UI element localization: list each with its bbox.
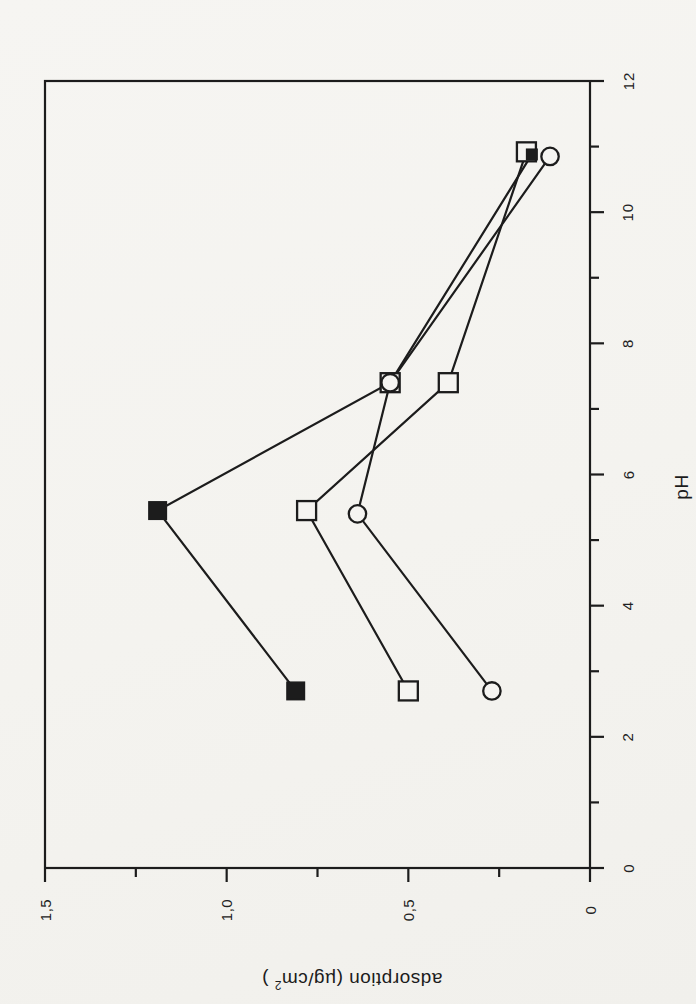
plot-box	[45, 81, 590, 868]
marker-open-circle	[483, 682, 500, 699]
marker-filled-square	[287, 682, 305, 700]
ph-axis-tick-label: 4	[620, 601, 637, 610]
ph-axis-tick-label: 10	[620, 203, 637, 222]
marker-open-circle	[541, 148, 558, 165]
adsorption-axis-title-suffix: )	[262, 969, 275, 990]
marker-open-square	[297, 501, 316, 520]
adsorption-axis-tick-label: 0,5	[400, 899, 417, 921]
adsorption-axis-tick-label: 1,0	[218, 899, 235, 921]
ph-axis-tick-label: 8	[620, 339, 637, 348]
series-line-filled-squares	[158, 154, 532, 690]
marker-open-square	[399, 681, 418, 700]
marker-open-circle	[381, 374, 398, 391]
ph-axis-tick-label: 6	[620, 470, 637, 479]
ph-axis-tick-label: 2	[620, 732, 637, 741]
series-line-open-squares	[307, 152, 527, 691]
marker-open-circle	[349, 505, 366, 522]
ph-axis-tick-label: 0	[620, 863, 637, 872]
ph-axis-tick-label: 12	[620, 72, 637, 91]
adsorption-axis-title-text: adsorption (µg/cm	[281, 969, 442, 990]
adsorption-axis-tick-label: 1,5	[37, 899, 54, 921]
marker-small-filled-square	[526, 148, 538, 160]
ph-axis-title: pH	[671, 474, 693, 499]
marker-open-square	[439, 373, 458, 392]
adsorption-axis-title-superscript: 2	[274, 978, 281, 992]
adsorption-axis-tick-label: 0	[582, 906, 599, 915]
marker-filled-square	[149, 502, 167, 519]
adsorption-axis-title: adsorption (µg/cm2 )	[262, 968, 443, 991]
series-line-open-circles	[357, 156, 550, 691]
chart-canvas: 02468101200,51,01,5	[0, 0, 696, 1004]
scanned-figure-page: 02468101200,51,01,5 pH adsorption (µg/cm…	[0, 0, 696, 1004]
